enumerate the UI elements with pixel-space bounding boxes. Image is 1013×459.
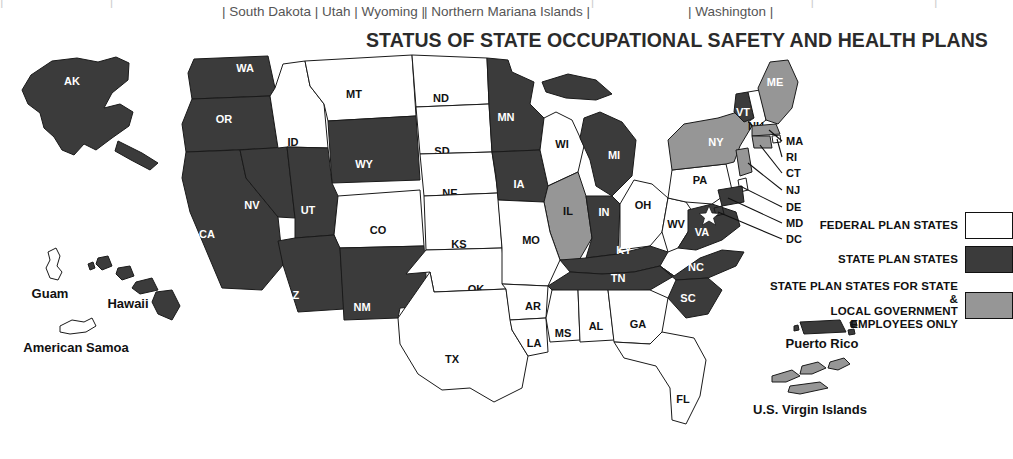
state-label-OR: OR (216, 113, 233, 125)
state-FL[interactable]: FL (614, 332, 706, 424)
state-NC[interactable]: NC (660, 250, 744, 280)
state-label-VT: VT (736, 106, 750, 118)
legend-row-state-plan[interactable]: STATE PLAN STATES (760, 246, 1013, 273)
state-label-FL: FL (676, 393, 690, 405)
state-AZ[interactable]: AZ (278, 235, 344, 312)
callout-label-RI: RI (786, 151, 797, 163)
legend-label-state-local-line1: STATE PLAN STATES FOR STATE & (770, 280, 958, 305)
state-label-AZ: AZ (285, 289, 300, 301)
state-KS[interactable]: KS (424, 193, 502, 250)
state-AR[interactable]: AR (502, 284, 548, 320)
legend-row-state-local[interactable]: STATE PLAN STATES FOR STATE & LOCAL GOVE… (760, 280, 1013, 330)
state-label-MO: MO (522, 234, 540, 246)
state-SD[interactable]: SD (416, 104, 492, 157)
state-SC[interactable]: SC (668, 278, 722, 318)
state-label-KS: KS (451, 238, 466, 250)
state-label-NV: NV (244, 199, 260, 211)
legend-label-federal: FEDERAL PLAN STATES (820, 219, 965, 232)
state-label-OH: OH (635, 199, 652, 211)
legend-label-state-local: STATE PLAN STATES FOR STATE & LOCAL GOVE… (760, 280, 965, 330)
map-page: | | | | | | South Dakota | Utah | Wyomin… (0, 0, 1013, 459)
territory-label-hawaii: Hawaii (107, 296, 148, 311)
callout-label-MA: MA (786, 135, 803, 147)
state-label-IN: IN (599, 206, 610, 218)
state-CT (752, 136, 772, 148)
state-label-ME: ME (767, 76, 784, 88)
territory-virgin-islands[interactable]: U.S. Virgin Islands (753, 358, 867, 417)
territory-guam[interactable]: Guam (32, 248, 69, 301)
state-label-MS: MS (555, 327, 572, 339)
state-ND[interactable]: ND (412, 55, 489, 107)
map-legend: FEDERAL PLAN STATES STATE PLAN STATES ST… (760, 212, 1013, 337)
state-label-UT: UT (301, 204, 316, 216)
state-MN[interactable]: MN (487, 58, 544, 152)
state-label-WY: WY (355, 158, 373, 170)
state-label-TX: TX (445, 353, 460, 365)
state-OH[interactable]: OH (620, 180, 668, 250)
state-MS[interactable]: MS (546, 290, 580, 342)
state-CO[interactable]: CO (334, 190, 424, 248)
state-label-AR: AR (525, 300, 541, 312)
state-label-IL: IL (563, 205, 573, 217)
state-label-ID: ID (288, 136, 299, 148)
legend-label-state-local-line2: LOCAL GOVERNMENT EMPLOYEES ONLY (831, 305, 958, 330)
territory-label-guam: Guam (32, 286, 69, 301)
state-label-IA: IA (514, 178, 525, 190)
callout-label-CT: CT (786, 167, 801, 179)
state-NJ (736, 148, 752, 176)
legend-label-state-plan: STATE PLAN STATES (838, 253, 965, 266)
state-label-MI: MI (608, 149, 620, 161)
state-label-CA: CA (199, 228, 215, 240)
state-label-ND: ND (433, 92, 449, 104)
state-label-GA: GA (630, 318, 647, 330)
territory-american-samoa[interactable]: American Samoa (23, 318, 129, 355)
state-label-WI: WI (555, 138, 568, 150)
territory-label-american-samoa: American Samoa (23, 340, 129, 355)
state-label-PA: PA (693, 174, 708, 186)
state-label-WV: WV (667, 218, 685, 230)
state-label-WA: WA (236, 62, 254, 74)
territory-label-puerto-rico: Puerto Rico (786, 336, 859, 351)
legend-swatch-state-local (965, 292, 1013, 319)
territory-label-virgin-islands: U.S. Virgin Islands (753, 402, 867, 417)
state-OR[interactable]: OR (182, 96, 278, 152)
callout-label-NJ: NJ (786, 184, 800, 196)
state-label-KY: KY (616, 244, 632, 256)
state-label-AL: AL (589, 320, 604, 332)
legend-swatch-federal (965, 212, 1013, 239)
state-label-NC: NC (688, 261, 704, 273)
state-MA (752, 124, 780, 136)
state-label-NY: NY (708, 136, 724, 148)
state-label-TN: TN (611, 272, 626, 284)
state-WY[interactable]: WY (328, 116, 420, 183)
legend-swatch-state-plan (965, 246, 1013, 273)
state-WA[interactable]: WA (188, 56, 275, 99)
state-label-SC: SC (680, 292, 695, 304)
state-IA[interactable]: IA (492, 150, 548, 202)
state-label-MN: MN (497, 111, 514, 123)
state-label-NM: NM (353, 301, 370, 313)
state-label-LA: LA (527, 337, 542, 349)
state-AK[interactable]: AK (22, 57, 158, 170)
legend-row-federal[interactable]: FEDERAL PLAN STATES (760, 212, 1013, 239)
state-label-MT: MT (346, 88, 362, 100)
state-label-VA: VA (695, 226, 710, 238)
state-NE[interactable]: NE (420, 152, 498, 199)
state-label-CO: CO (370, 224, 387, 236)
state-IN[interactable]: IN (586, 196, 620, 258)
territory-hawaii[interactable]: Hawaii (88, 256, 180, 320)
state-label-AK: AK (64, 75, 80, 87)
